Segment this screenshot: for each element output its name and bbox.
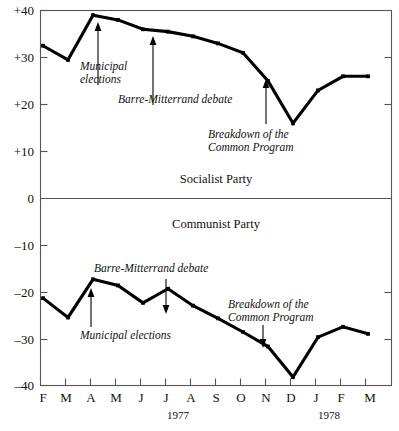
y-tick-label: –20 [14,285,35,300]
data-point-marker [266,345,270,349]
data-point-marker [66,316,70,320]
data-point-marker [116,284,120,288]
x-tick-label: D [286,390,295,405]
communist-party-label: Communist Party [172,217,261,231]
data-point-marker [366,74,370,78]
data-point-marker [216,316,220,320]
y-tick-label: +40 [14,3,34,18]
y-tick-label: +10 [14,144,34,159]
data-point-marker [341,325,345,329]
annotation-text-line: Barre-Mitterrand debate [118,93,232,105]
x-tick-label: A [186,390,196,405]
y-tick-label: –30 [14,332,35,347]
data-point-marker [41,296,45,300]
y-tick-label: –10 [14,238,35,253]
x-tick-label: S [212,390,219,405]
x-tick-label: J [313,390,318,405]
x-tick-label: M [110,390,122,405]
annotation-text-line: Common Program [228,311,314,324]
annotation-text-line: elections [80,73,121,85]
data-point-marker [316,89,320,93]
data-point-marker [141,301,145,305]
data-point-marker [191,34,195,38]
year-label-1978: 1978 [318,409,341,421]
annotation-text-line: Breakdown of the [208,128,289,141]
socialist-party-label: Socialist Party [180,172,253,186]
y-tick-label: 0 [28,191,35,206]
annotation-text-line: Municipal elections [79,329,172,342]
data-point-marker [66,58,70,62]
data-point-marker [41,44,45,48]
x-tick-label: M [60,390,72,405]
data-point-marker [366,332,370,336]
data-point-marker [291,121,295,125]
annotation-text-line: Municipal [79,60,127,73]
y-tick-label: +30 [14,50,34,65]
data-point-marker [91,277,95,281]
x-tick-label: A [86,390,96,405]
data-point-marker [91,13,95,17]
data-point-marker [191,304,195,308]
data-point-marker [166,287,170,291]
annotation-text-line: Breakdown of the [228,298,309,311]
data-point-marker [241,330,245,334]
x-tick-label: M [364,390,376,405]
annotation-text-line: Common Program [208,141,294,154]
data-point-marker [166,30,170,34]
data-point-marker [116,18,120,22]
chart-background [0,0,399,431]
chart-container: +40 +30 +20 +10 0 –10 –20 –30 –40 [0,0,399,431]
data-point-marker [241,51,245,55]
annotation-text-line: Barre-Mitterrand debate [94,262,208,274]
data-point-marker [291,375,295,379]
x-tick-label: F [337,390,344,405]
y-tick-label: +20 [14,97,34,112]
data-point-marker [141,27,145,31]
data-point-marker [341,74,345,78]
y-tick-label: –40 [14,378,35,393]
x-tick-label: J [138,390,143,405]
data-point-marker [216,42,220,46]
two-panel-line-chart: +40 +30 +20 +10 0 –10 –20 –30 –40 [0,0,399,431]
x-tick-label: F [39,390,46,405]
year-label-1977: 1977 [167,409,190,421]
x-tick-label: N [261,390,271,405]
x-tick-label: J [163,390,168,405]
x-tick-label: O [236,390,245,405]
data-point-marker [316,335,320,339]
